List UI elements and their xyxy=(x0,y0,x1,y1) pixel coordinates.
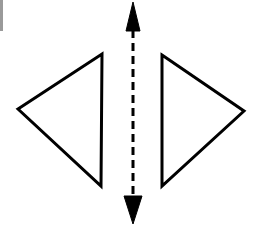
right-triangle xyxy=(162,55,244,186)
left-triangle xyxy=(18,54,102,186)
arrow-head-up-icon xyxy=(126,2,140,31)
diagram-canvas: Mirror symmetry diagram xyxy=(0,0,268,227)
symmetry-diagram: Mirror symmetry diagram xyxy=(0,0,268,227)
arrow-head-down-icon xyxy=(124,196,142,224)
